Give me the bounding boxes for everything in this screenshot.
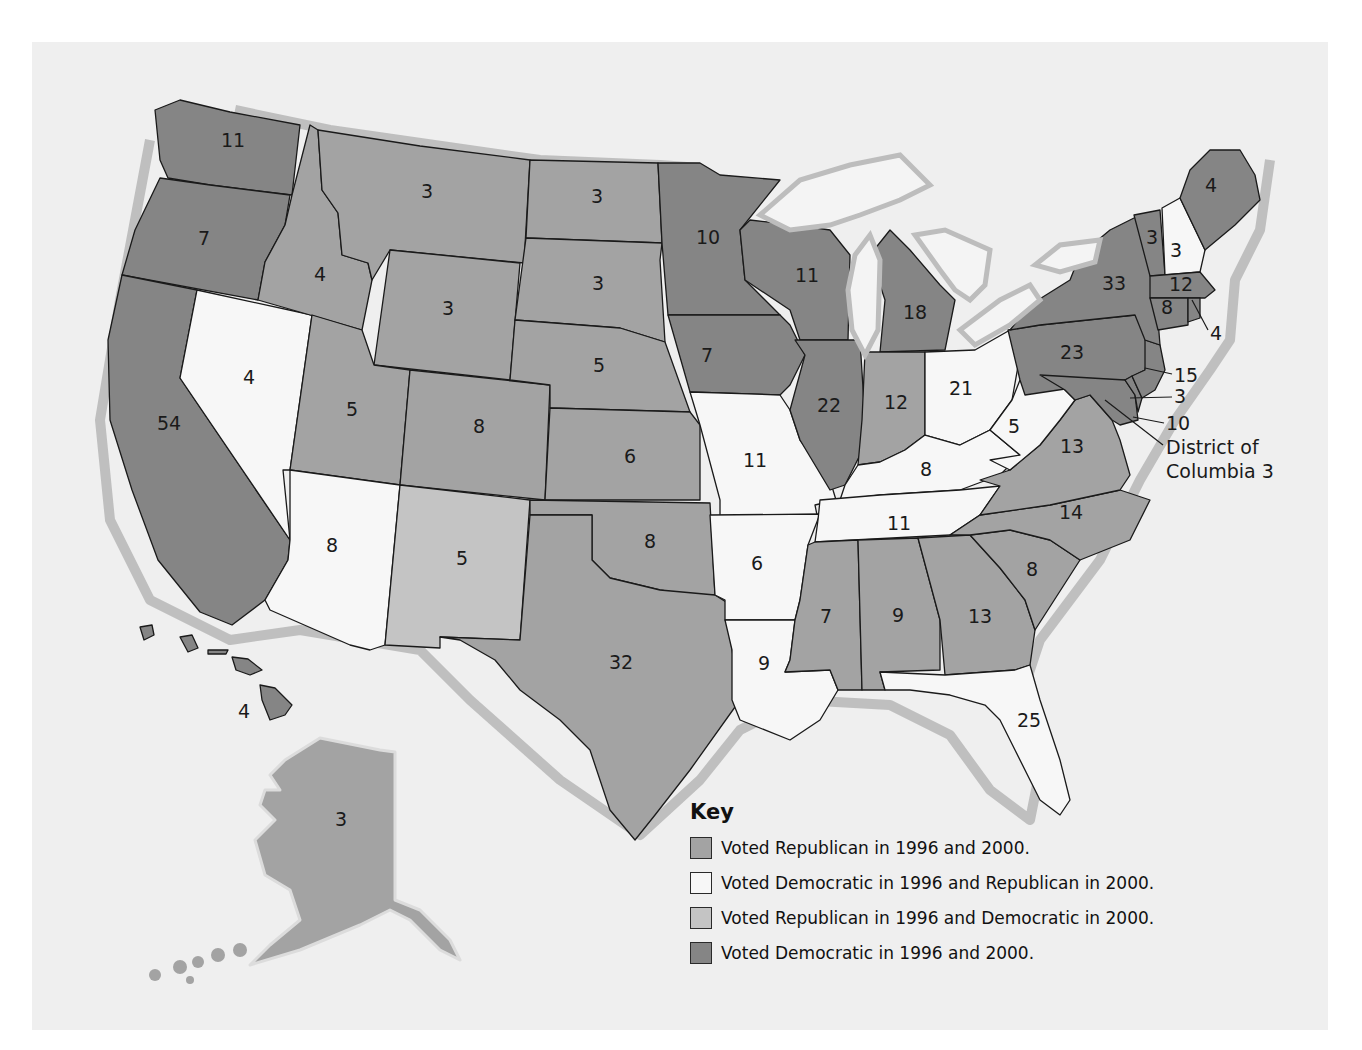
state-florida[interactable] [880,665,1070,815]
state-hawaii-oahu[interactable] [180,635,198,652]
label-WV: 5 [1008,415,1020,437]
states-layer [108,100,1260,840]
label-TX: 32 [609,651,633,673]
state-hawaii-kauai[interactable] [140,625,154,640]
label-MI: 18 [903,301,927,323]
label-GA: 13 [968,605,992,627]
label-SC: 8 [1026,558,1038,580]
label-TN: 11 [887,512,911,534]
label-UT: 5 [346,398,358,420]
label-WA: 11 [221,129,245,151]
label-CA: 54 [157,412,181,434]
label-VT: 3 [1146,226,1158,248]
label-MS: 7 [820,605,832,627]
label-SD: 3 [592,272,604,294]
label-AZ: 8 [326,534,338,556]
label-dc-line1: District of [1166,436,1260,458]
label-KS: 6 [624,445,636,467]
label-OH: 21 [949,377,973,399]
state-hawaii-big-island[interactable] [260,685,292,720]
label-IN: 12 [884,391,908,413]
label-NC: 14 [1059,501,1083,523]
key-title: Key [690,800,1154,824]
label-RI: 4 [1210,322,1222,344]
state-rhode-island[interactable] [1188,298,1200,322]
us-electoral-map: 11 7 54 4 4 3 3 5 8 8 5 3 3 5 6 8 32 10 … [0,0,1362,1050]
alaska-hawaii [140,625,460,984]
label-VA: 13 [1060,435,1084,457]
label-LA: 9 [758,652,770,674]
label-CT: 8 [1161,296,1173,318]
label-KY: 8 [920,458,932,480]
label-MN: 10 [696,226,720,248]
state-iowa[interactable] [668,315,805,395]
label-NV: 4 [243,366,255,388]
label-AK: 3 [335,808,347,830]
label-AR: 6 [751,552,763,574]
label-NM: 5 [456,547,468,569]
label-NY: 33 [1102,272,1126,294]
state-hawaii-molokai[interactable] [208,650,228,654]
key-label: Voted Democratic in 1996 and Republican … [721,873,1154,893]
label-ME: 4 [1205,174,1217,196]
label-MT: 3 [421,180,433,202]
key-item-rep-both: Voted Republican in 1996 and 2000. [690,830,1154,865]
label-NJ: 15 [1174,364,1198,386]
key-item-dem-then-rep: Voted Democratic in 1996 and Republican … [690,865,1154,900]
label-WY: 3 [442,297,454,319]
state-alaska[interactable] [250,738,460,965]
label-MA: 12 [1169,273,1193,295]
label-OR: 7 [198,227,210,249]
label-HI: 4 [238,700,250,722]
key-label: Voted Republican in 1996 and Democratic … [721,908,1154,928]
label-DE: 3 [1174,385,1186,407]
label-ID: 4 [314,263,326,285]
label-FL: 25 [1017,709,1041,731]
swatch-dem-both [690,942,712,964]
key-item-rep-then-dem: Voted Republican in 1996 and Democratic … [690,900,1154,935]
key-item-dem-both: Voted Democratic in 1996 and 2000. [690,935,1154,970]
label-MO: 11 [743,449,767,471]
aleutian-islands [149,943,247,984]
label-WI: 11 [795,264,819,286]
label-AL: 9 [892,604,904,626]
state-hawaii-maui[interactable] [232,657,262,675]
swatch-rep-both [690,837,712,859]
label-ND: 3 [591,185,603,207]
label-dc-line2: Columbia 3 [1166,460,1274,482]
label-IA: 7 [701,344,713,366]
label-MD: 10 [1166,412,1190,434]
key-label: Voted Democratic in 1996 and 2000. [721,943,1034,963]
state-kansas[interactable] [545,408,700,500]
label-IL: 22 [817,394,841,416]
key-label: Voted Republican in 1996 and 2000. [721,838,1030,858]
label-OK: 8 [644,530,656,552]
swatch-rep-then-dem [690,907,712,929]
label-PA: 23 [1060,341,1084,363]
label-NE: 5 [593,354,605,376]
map-key: Key Voted Republican in 1996 and 2000. V… [690,800,1154,970]
label-NH: 3 [1170,239,1182,261]
swatch-dem-then-rep [690,872,712,894]
label-CO: 8 [473,415,485,437]
